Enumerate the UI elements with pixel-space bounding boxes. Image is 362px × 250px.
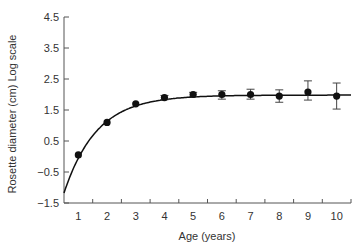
data-point [333,92,340,99]
fitted-curve [64,95,351,193]
data-point [218,91,225,98]
y-axis-label: Rosette diameter (cm) Log scale [6,35,18,194]
data-point [190,91,197,98]
curve-path [64,95,351,193]
x-tick-label: 7 [247,210,253,222]
y-tick-label: 4.5 [44,11,59,23]
x-tick-label: 3 [133,210,139,222]
data-point [103,119,110,126]
data-point [247,91,254,98]
x-tick-label: 9 [305,210,311,222]
x-tick-label: 10 [331,210,343,222]
y-tick-label: 0.5 [44,135,59,147]
x-tick-label: 4 [161,210,167,222]
x-tick-label: 5 [190,210,196,222]
y-tick-label: 1.5 [44,104,59,116]
data-point [75,151,82,158]
axes [64,17,351,203]
y-tick-label: −0.5 [37,166,59,178]
x-tick-label: 6 [219,210,225,222]
x-tick-label: 1 [75,210,81,222]
y-tick-label: 2.5 [44,73,59,85]
chart: −1.5−0.50.51.52.53.54.512345678910 Age (… [0,0,362,250]
data-point [161,94,168,101]
data-point [304,88,311,95]
data-point [132,100,139,107]
x-tick-label: 8 [276,210,282,222]
tick-labels: −1.5−0.50.51.52.53.54.512345678910 [37,11,342,222]
x-axis-label: Age (years) [179,230,236,242]
y-tick-label: 3.5 [44,42,59,54]
x-tick-label: 2 [104,210,110,222]
data-point [276,92,283,99]
data-points [75,81,341,159]
y-tick-label: −1.5 [37,197,59,209]
